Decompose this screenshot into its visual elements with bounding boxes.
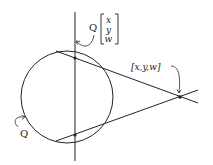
matrix-bracket-right (115, 14, 118, 44)
tangent-point-upper (73, 56, 76, 59)
diagram-canvas: Q x y w [x,y,w] Q (0, 0, 213, 165)
point-label: [x,y,w] (131, 62, 161, 72)
conic-circle (21, 51, 113, 143)
tangent-line-upper (56, 51, 198, 103)
tangent-point-lower (73, 133, 76, 136)
vector-component-x: x (106, 15, 111, 25)
tangent-line-lower (56, 90, 198, 141)
conic-label-Q: Q (20, 128, 28, 139)
conic-label-arrow (15, 117, 24, 127)
vector-component-w: w (105, 34, 113, 44)
point-label-arrow (171, 66, 180, 93)
polar-label-arrow (77, 35, 94, 46)
external-point (178, 95, 182, 99)
polar-label-Q: Q (89, 22, 97, 33)
